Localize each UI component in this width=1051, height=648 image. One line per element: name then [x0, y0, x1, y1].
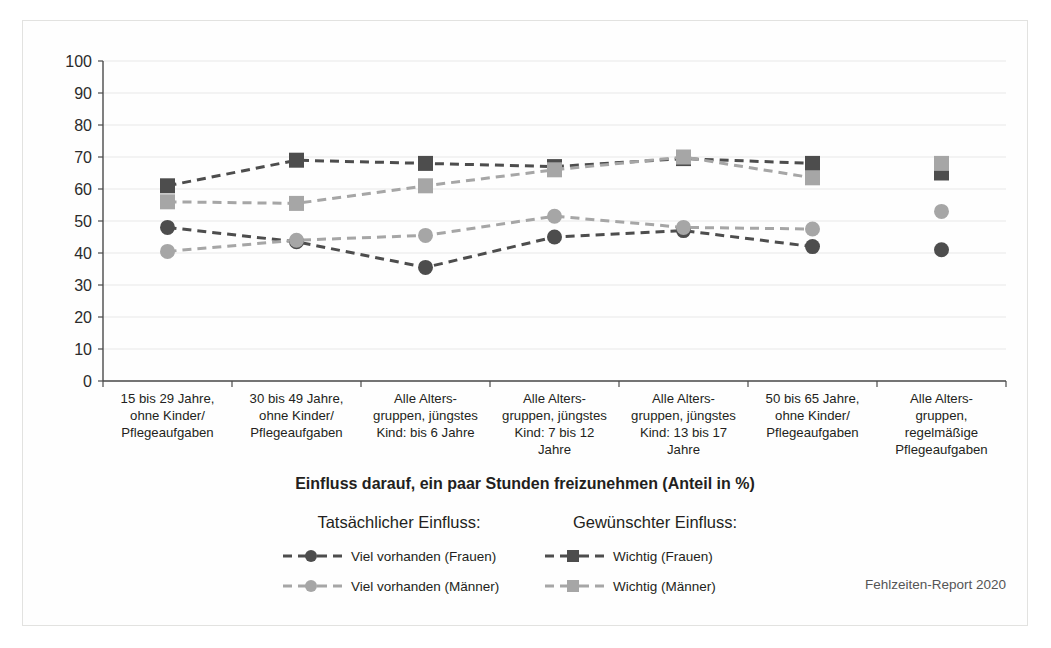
data-point-marker	[547, 230, 562, 245]
data-point-marker	[547, 162, 562, 177]
data-point-marker	[289, 233, 304, 248]
legend-marker	[567, 580, 579, 592]
y-tick-label: 100	[65, 53, 92, 70]
x-tick-label: ohne Kinder/	[775, 408, 850, 423]
data-point-marker	[418, 178, 433, 193]
x-tick-label: ohne Kinder/	[259, 408, 334, 423]
data-point-marker	[934, 204, 949, 219]
legend-label: Viel vorhanden (Frauen)	[351, 549, 496, 564]
x-tick-label: Alle Alters-	[652, 391, 715, 406]
data-point-marker	[418, 156, 433, 171]
y-tick-label: 0	[83, 373, 92, 390]
legend-marker	[305, 550, 317, 562]
series-lines	[168, 157, 813, 267]
x-tick-label: Kind: bis 6 Jahre	[376, 425, 474, 440]
x-tick-label: Pflegeaufgaben	[895, 442, 987, 457]
y-tick-label: 80	[74, 117, 92, 134]
data-point-marker	[160, 194, 175, 209]
x-tick-label: Jahre	[667, 442, 700, 457]
data-point-marker	[934, 156, 949, 171]
legend-marker	[305, 580, 317, 592]
x-tick-label: Alle Alters-	[523, 391, 586, 406]
series-line-0	[168, 159, 813, 186]
data-point-marker	[934, 242, 949, 257]
data-point-marker	[160, 178, 175, 193]
series-markers	[160, 150, 949, 275]
series-line-2	[168, 227, 813, 267]
x-tick-label: ohne Kinder/	[130, 408, 205, 423]
x-tick-label: 30 bis 49 Jahre,	[250, 391, 344, 406]
x-tick-label: Kind: 7 bis 12	[515, 425, 595, 440]
x-tick-label: Pflegeaufgaben	[250, 425, 342, 440]
y-tick-label: 70	[74, 149, 92, 166]
y-axis	[98, 61, 103, 381]
data-point-marker	[676, 220, 691, 235]
data-point-marker	[547, 209, 562, 224]
x-tick-label: Alle Alters-	[910, 391, 973, 406]
data-point-marker	[805, 156, 820, 171]
data-point-marker	[805, 239, 820, 254]
data-point-marker	[289, 153, 304, 168]
x-tick-label: 50 bis 65 Jahre,	[766, 391, 860, 406]
legend-label: Wichtig (Männer)	[613, 579, 716, 594]
x-tick-labels: 15 bis 29 Jahre,ohne Kinder/Pflegeaufgab…	[121, 391, 988, 457]
x-tick-label: Kind: 13 bis 17	[640, 425, 727, 440]
x-tick-label: 15 bis 29 Jahre,	[121, 391, 215, 406]
source-label: Fehlzeiten-Report 2020	[865, 577, 1006, 592]
x-tick-label: gruppen, jüngstes	[631, 408, 736, 423]
x-tick-label: gruppen,	[915, 408, 967, 423]
x-tick-label: Alle Alters-	[394, 391, 457, 406]
y-tick-labels: 0102030405060708090100	[65, 53, 92, 390]
data-point-marker	[289, 196, 304, 211]
y-tick-label: 10	[74, 341, 92, 358]
x-tick-label: regelmäßige	[905, 425, 978, 440]
x-axis	[103, 381, 1006, 387]
legend-items: Viel vorhanden (Frauen)Viel vorhanden (M…	[283, 549, 716, 594]
y-tick-label: 20	[74, 309, 92, 326]
data-point-marker	[805, 170, 820, 185]
chart-page: 0102030405060708090100 15 bis 29 Jahre,o…	[0, 0, 1051, 648]
y-tick-label: 90	[74, 85, 92, 102]
data-point-marker	[160, 220, 175, 235]
chart-title: Einfluss darauf, ein paar Stunden freizu…	[295, 475, 755, 492]
data-point-marker	[676, 150, 691, 165]
series-line-1	[168, 157, 813, 203]
y-tick-label: 50	[74, 213, 92, 230]
data-point-marker	[160, 244, 175, 259]
x-tick-label: Jahre	[538, 442, 571, 457]
data-point-marker	[418, 260, 433, 275]
y-tick-label: 60	[74, 181, 92, 198]
x-tick-label: gruppen, jüngstes	[373, 408, 478, 423]
legend-group-title-desired: Gewünschter Einfluss:	[573, 513, 737, 531]
x-tick-label: gruppen, jüngstes	[502, 408, 607, 423]
legend-label: Wichtig (Frauen)	[613, 549, 713, 564]
line-chart: 0102030405060708090100 15 bis 29 Jahre,o…	[0, 0, 1051, 648]
legend-marker	[567, 550, 579, 562]
legend-label: Viel vorhanden (Männer)	[351, 579, 499, 594]
x-tick-label: Pflegeaufgaben	[766, 425, 858, 440]
data-point-marker	[418, 228, 433, 243]
y-tick-label: 40	[74, 245, 92, 262]
y-tick-label: 30	[74, 277, 92, 294]
x-tick-label: Pflegeaufgaben	[121, 425, 213, 440]
legend-group-title-actual: Tatsächlicher Einfluss:	[317, 513, 480, 531]
data-point-marker	[805, 222, 820, 237]
